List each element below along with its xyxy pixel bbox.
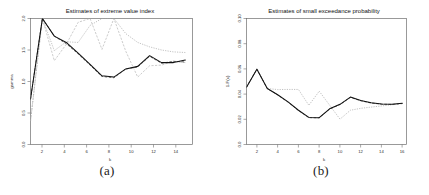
chart-a-series-group: [31, 19, 186, 122]
chart-b-xtick-label: 16: [400, 149, 405, 154]
chart-a-xtick-label: 12: [151, 149, 156, 154]
chart-a-svg: Estimates of extreme value index 0.0 0.5…: [0, 0, 214, 163]
chart-b-series-dashed: [247, 69, 403, 118]
chart-b-x-axis-label: k: [323, 157, 326, 162]
chart-a-xtick-label: 4: [63, 149, 66, 154]
chart-b-ytick-label: 0.0: [237, 141, 242, 147]
figure-panel-a: Estimates of extreme value index 0.0 0.5…: [0, 0, 214, 195]
chart-a-ytick-label: 0.5: [21, 109, 26, 115]
chart-b-x-axis: 2 4 6 8 10 12 14 16: [256, 145, 405, 155]
chart-b-xtick-label: 2: [256, 149, 259, 154]
chart-b-xtick-label: 12: [358, 149, 363, 154]
chart-a-x-axis: 2 4 6 8 10 12 14: [41, 145, 179, 155]
figure-panel-b: Estimates of small exceedance probabilit…: [214, 0, 428, 195]
figure-caption-b: (b): [313, 164, 329, 177]
chart-b-xtick-label: 8: [318, 149, 321, 154]
chart-a-xtick-label: 8: [108, 149, 111, 154]
chart-b-ytick-label: 0.10: [237, 14, 242, 23]
chart-a-frame: [31, 19, 193, 145]
chart-a-ytick-label: 1.0: [21, 78, 26, 84]
chart-a-plot-area: Estimates of extreme value index 0.0 0.5…: [0, 0, 214, 163]
chart-b-ytick-label: 0.04: [237, 89, 242, 98]
chart-b-ytick-label: 0.08: [237, 39, 242, 48]
chart-b-y-axis: 0.0 0.02 0.04 0.06 0.08 0.10: [237, 14, 247, 148]
chart-a-ytick-label: 1.5: [21, 46, 26, 52]
chart-a-y-axis: 0.0 0.5 1.0 1.5 2.0: [21, 15, 31, 147]
figure-caption-a: (a): [99, 164, 114, 177]
chart-b-title: Estimates of small exceedance probabilit…: [268, 8, 380, 14]
chart-a-series-dotted-b: [31, 19, 186, 122]
chart-b-series-dotted: [247, 69, 403, 119]
chart-b-xtick-label: 10: [338, 149, 343, 154]
chart-a-xtick-label: 6: [85, 149, 88, 154]
chart-a-ytick-label: 2.0: [21, 15, 26, 21]
chart-b-series-group: [247, 69, 403, 119]
figure-panel-row: Estimates of extreme value index 0.0 0.5…: [0, 0, 429, 195]
chart-a-xtick-label: 2: [41, 149, 44, 154]
chart-b-series-solid: [247, 69, 403, 118]
chart-b-plot-area: Estimates of small exceedance probabilit…: [214, 0, 428, 163]
chart-a-xtick-label: 10: [129, 149, 134, 154]
chart-a-series-dotted-a: [31, 19, 186, 122]
chart-b-frame: [247, 19, 407, 145]
chart-b-y-axis-label: 1-F(x): [225, 75, 230, 87]
chart-a-y-axis-label: gamma: [9, 74, 14, 89]
chart-b-xtick-label: 14: [379, 149, 384, 154]
chart-b-ytick-label: 0.06: [237, 64, 242, 73]
chart-b-ytick-label: 0.02: [237, 115, 242, 124]
chart-a-xtick-label: 14: [173, 149, 178, 154]
chart-b-xtick-label: 6: [297, 149, 300, 154]
chart-a-title: Estimates of extreme value index: [66, 8, 154, 14]
chart-a-ytick-label: 0.0: [21, 141, 26, 147]
chart-a-x-axis-label: k: [109, 157, 112, 162]
chart-b-svg: Estimates of small exceedance probabilit…: [214, 0, 428, 163]
chart-b-xtick-label: 4: [276, 149, 279, 154]
